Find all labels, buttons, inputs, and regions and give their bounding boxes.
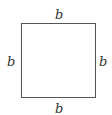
- top-side-label: b: [55, 8, 63, 21]
- bottom-side-label: b: [55, 102, 63, 115]
- square-shape: [21, 23, 96, 98]
- right-side-label: b: [99, 55, 107, 68]
- left-side-label: b: [7, 55, 15, 68]
